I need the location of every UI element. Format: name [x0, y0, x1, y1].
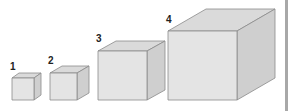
cube-label: 1 [10, 61, 16, 72]
cube-4 [168, 9, 275, 100]
cubes-diagram [0, 0, 288, 111]
cube-label: 4 [166, 14, 172, 25]
cube-3 [98, 41, 165, 100]
cube-front-face [50, 73, 77, 100]
cube-front-face [98, 51, 147, 100]
cube-side-face [147, 41, 165, 100]
cube-2 [50, 66, 89, 100]
cube-label: 2 [48, 55, 54, 66]
right-edge-bar [285, 0, 288, 111]
cube-side-face [34, 73, 41, 100]
cube-1 [12, 73, 41, 100]
cube-front-face [168, 31, 237, 100]
cube-label: 3 [96, 33, 102, 44]
cube-front-face [12, 78, 34, 100]
